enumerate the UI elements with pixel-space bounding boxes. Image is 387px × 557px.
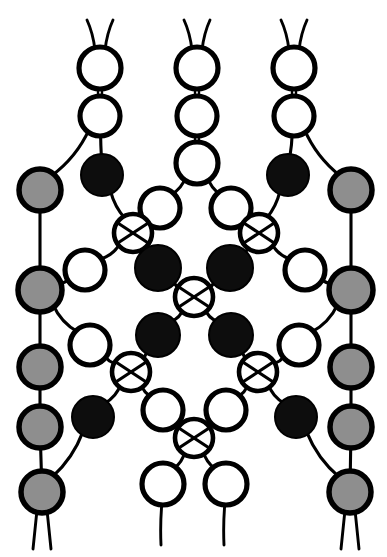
node-disc-black bbox=[72, 396, 114, 438]
node-disc-gray bbox=[329, 471, 371, 513]
node-white bbox=[143, 390, 183, 430]
node-black bbox=[136, 313, 180, 357]
node-disc-white bbox=[205, 463, 247, 505]
node-gray bbox=[18, 268, 62, 312]
node-disc-white bbox=[143, 390, 183, 430]
node-crossing bbox=[175, 419, 213, 457]
node-disc-black bbox=[81, 154, 123, 196]
node-white bbox=[273, 47, 315, 89]
node-white bbox=[142, 463, 184, 505]
node-disc-gray bbox=[19, 169, 61, 211]
node-gray bbox=[19, 169, 61, 211]
node-white bbox=[206, 390, 246, 430]
terminal-leg bbox=[161, 502, 162, 545]
node-white bbox=[177, 96, 217, 136]
node-disc-white bbox=[176, 142, 218, 184]
node-disc-white bbox=[206, 390, 246, 430]
node-disc-black bbox=[135, 245, 181, 291]
node-gray bbox=[330, 169, 372, 211]
node-gray bbox=[19, 406, 61, 448]
node-white bbox=[79, 47, 121, 89]
node-disc-white bbox=[142, 463, 184, 505]
node-black bbox=[275, 396, 317, 438]
node-white bbox=[70, 325, 110, 365]
node-disc-gray bbox=[330, 346, 372, 388]
node-black bbox=[72, 396, 114, 438]
node-disc-gray bbox=[21, 471, 63, 513]
node-gray bbox=[329, 471, 371, 513]
node-black bbox=[81, 154, 123, 196]
node-gray bbox=[330, 346, 372, 388]
node-gray bbox=[329, 268, 373, 312]
node-disc-black bbox=[267, 154, 309, 196]
node-white bbox=[274, 96, 314, 136]
node-disc-white bbox=[176, 47, 218, 89]
node-disc-white bbox=[80, 96, 120, 136]
node-black bbox=[135, 245, 181, 291]
node-white bbox=[176, 142, 218, 184]
node-disc-gray bbox=[330, 169, 372, 211]
node-disc-white bbox=[79, 47, 121, 89]
node-disc-black bbox=[275, 396, 317, 438]
node-black bbox=[209, 313, 253, 357]
node-white bbox=[176, 47, 218, 89]
node-white bbox=[279, 325, 319, 365]
node-white bbox=[65, 250, 105, 290]
node-disc-gray bbox=[19, 346, 61, 388]
node-white bbox=[205, 463, 247, 505]
node-gray bbox=[21, 471, 63, 513]
node-disc-white bbox=[285, 250, 325, 290]
node-disc-gray bbox=[329, 268, 373, 312]
node-disc-white bbox=[273, 47, 315, 89]
node-crossing bbox=[112, 353, 150, 391]
braid-diagram bbox=[0, 0, 387, 557]
node-crossing bbox=[240, 214, 278, 252]
node-gray bbox=[330, 406, 372, 448]
node-black bbox=[207, 245, 253, 291]
node-disc-black bbox=[209, 313, 253, 357]
node-disc-white bbox=[65, 250, 105, 290]
node-white bbox=[80, 96, 120, 136]
node-crossing bbox=[114, 214, 152, 252]
terminal-leg bbox=[224, 502, 225, 545]
node-disc-white bbox=[274, 96, 314, 136]
node-disc-black bbox=[136, 313, 180, 357]
node-disc-black bbox=[207, 245, 253, 291]
node-disc-white bbox=[279, 325, 319, 365]
node-black bbox=[267, 154, 309, 196]
node-crossing bbox=[175, 278, 213, 316]
node-disc-white bbox=[177, 96, 217, 136]
node-white bbox=[285, 250, 325, 290]
node-gray bbox=[19, 346, 61, 388]
node-disc-white bbox=[70, 325, 110, 365]
node-crossing bbox=[239, 353, 277, 391]
figure-root bbox=[0, 0, 387, 557]
node-disc-gray bbox=[330, 406, 372, 448]
node-disc-gray bbox=[18, 268, 62, 312]
node-disc-gray bbox=[19, 406, 61, 448]
